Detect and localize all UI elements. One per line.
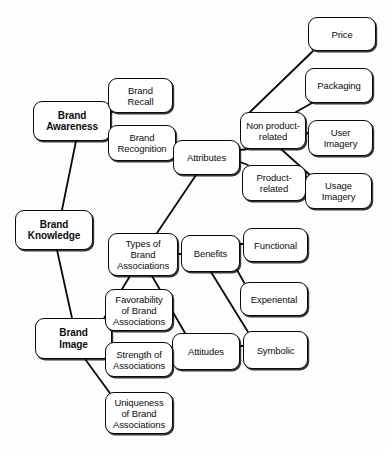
node-label-brand_image: Brand Image (57, 327, 89, 350)
node-uniqueness[interactable]: Uniqueness of Brand Associations (105, 392, 173, 434)
node-brand_recognition[interactable]: Brand Recognition (108, 125, 176, 161)
node-non_product[interactable]: Non product- related (240, 112, 306, 149)
node-label-non_product: Non product- related (244, 120, 302, 142)
node-label-brand_awareness: Brand Awareness (44, 110, 100, 133)
node-brand_image[interactable]: Brand Image (35, 318, 112, 359)
node-brand_knowledge[interactable]: Brand Knowledge (15, 210, 93, 250)
node-types_assoc[interactable]: Types of Brand Associations (108, 233, 178, 276)
node-label-experiental: Experiental (249, 294, 299, 305)
node-label-usage_imagery: Usage Imagery (320, 180, 358, 202)
node-benefits[interactable]: Benefits (181, 235, 240, 272)
node-label-functional: Functional (252, 240, 299, 251)
node-attitudes[interactable]: Attitudes (172, 333, 240, 370)
node-usage_imagery[interactable]: Usage Imagery (305, 173, 372, 209)
node-brand_recall[interactable]: Brand Recall (108, 78, 173, 113)
node-label-packaging: Packaging (315, 80, 362, 91)
node-packaging[interactable]: Packaging (305, 68, 373, 103)
node-user_imagery[interactable]: User Imagery (308, 120, 373, 156)
edge-brand_knowledge-to-brand_image (57, 250, 72, 318)
node-label-price: Price (329, 29, 354, 40)
node-brand_awareness[interactable]: Brand Awareness (33, 101, 111, 141)
node-label-brand_recognition: Brand Recognition (115, 132, 168, 154)
node-label-symbolic: Symbolic (255, 345, 297, 356)
node-label-user_imagery: User Imagery (322, 127, 360, 149)
node-symbolic[interactable]: Symbolic (243, 331, 308, 369)
edge-types_assoc-to-attributes (157, 175, 196, 233)
edge-attributes-to-non_product (240, 149, 248, 150)
node-label-favorability: Favorability of Brand Associations (111, 294, 167, 327)
edge-attributes-to-product_related (240, 162, 248, 165)
node-attributes[interactable]: Attributes (173, 140, 240, 175)
node-label-attitudes: Attitudes (186, 346, 226, 357)
node-experiental[interactable]: Experiental (240, 282, 308, 316)
node-price[interactable]: Price (308, 17, 376, 51)
edge-brand_knowledge-to-brand_awareness (62, 141, 76, 210)
node-favorability[interactable]: Favorability of Brand Associations (105, 289, 173, 331)
edge-non_product-to-packaging (296, 103, 312, 112)
concept-map-canvas: Brand AwarenessBrand KnowledgeBrand Imag… (0, 0, 387, 450)
node-label-strength: Strength of Associations (111, 349, 167, 371)
node-label-product_related: Product- related (254, 172, 293, 194)
node-label-attributes: Attributes (185, 152, 228, 163)
node-label-uniqueness: Uniqueness of Brand Associations (111, 397, 167, 430)
node-label-brand_recall: Brand Recall (126, 85, 156, 107)
node-strength[interactable]: Strength of Associations (105, 342, 173, 377)
node-label-benefits: Benefits (192, 248, 230, 259)
node-product_related[interactable]: Product- related (242, 165, 306, 201)
edge-non_product-to-price (250, 51, 313, 112)
node-label-brand_knowledge: Brand Knowledge (26, 219, 82, 242)
node-label-types_assoc: Types of Brand Associations (115, 238, 171, 271)
node-functional[interactable]: Functional (243, 228, 308, 262)
